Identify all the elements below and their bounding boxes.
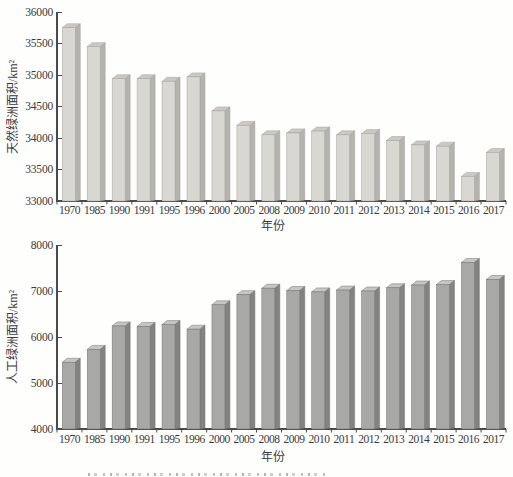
bar-1995: [162, 321, 180, 429]
bar-2012: [362, 287, 380, 429]
bar-1985: [87, 345, 105, 429]
bar-2010: [312, 288, 330, 429]
bar-2008: [262, 284, 280, 429]
bar-1990: [112, 322, 130, 429]
bar-2015: [436, 281, 454, 429]
bar-2016: [461, 258, 479, 429]
figure-oasis-area-bar-charts: 天然绿洲面积/km² 年份 人工绿洲面积/km² 年份 360003550035…: [0, 0, 513, 477]
bar-1970: [62, 358, 80, 429]
bar-1996: [187, 325, 205, 429]
bar-2009: [287, 287, 305, 429]
bar-2000: [212, 301, 230, 429]
artificial-oasis-plot: [0, 0, 513, 477]
bar-2005: [237, 291, 255, 429]
bar-1991: [137, 322, 155, 429]
bar-2011: [337, 286, 355, 429]
bar-2014: [411, 281, 429, 429]
bar-2017: [486, 276, 504, 430]
bar-2013: [387, 284, 405, 429]
